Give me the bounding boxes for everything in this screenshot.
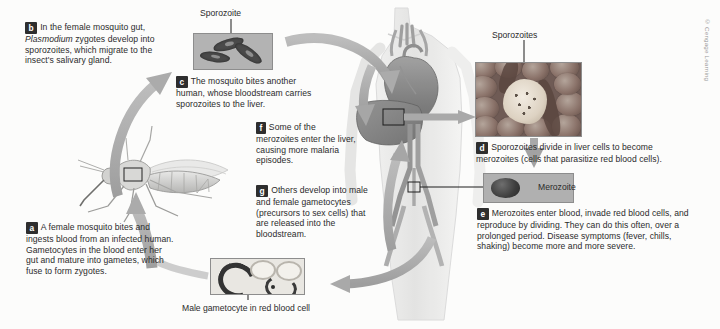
step-a: aA female mosquito bites and ingests blo…	[26, 222, 176, 276]
step-a-tag: a	[26, 222, 38, 234]
panel-blood-smear	[210, 258, 305, 295]
step-c-text: The mosquito bites another human, whose …	[176, 76, 311, 109]
copyright-notice: © Cengage Learning	[704, 18, 711, 81]
step-b-italic-taxon: Plasmodium	[25, 34, 73, 44]
figure-canvas: Sporozoite Sporozoites Merozoite Male ga…	[0, 0, 720, 329]
step-g-tag: g	[256, 185, 268, 197]
label-merozoite: Merozoite	[538, 182, 576, 192]
step-a-text: A female mosquito bites and ingests bloo…	[26, 222, 174, 276]
mosquito-illustration	[78, 126, 228, 222]
panel-sporozoite	[193, 33, 273, 70]
step-f-tag: f	[256, 122, 266, 134]
sporozoite-cell	[233, 40, 264, 67]
step-b: bIn the female mosquito gut, Plasmodium …	[25, 22, 175, 66]
step-e: eMerozoites enter blood, invade red bloo…	[477, 208, 705, 252]
step-e-tag: e	[477, 208, 489, 220]
step-f-text: Some of the merozoites enter the liver, …	[256, 122, 356, 165]
step-e-text: Merozoites enter blood, invade red blood…	[477, 208, 689, 251]
step-g-text: Others develop into male and female game…	[256, 185, 368, 239]
merozoite-cluster	[510, 88, 542, 117]
caption-male-gametocyte: Male gametocyte in red blood cell	[182, 303, 310, 313]
sporozoite-cell	[200, 49, 231, 64]
caption-sporozoite: Sporozoite	[200, 8, 241, 18]
step-b-text-before: In the female mosquito gut,	[40, 22, 145, 32]
step-c-tag: c	[176, 76, 188, 88]
step-f: fSome of the merozoites enter the liver,…	[256, 122, 360, 166]
step-d: dSporozoites divide in liver cells to be…	[476, 142, 684, 165]
merozoite-cell	[491, 178, 519, 198]
caption-sporozoites: Sporozoites	[492, 30, 537, 40]
step-d-text: Sporozoites divide in liver cells to bec…	[476, 142, 662, 164]
step-d-tag: d	[476, 142, 488, 154]
step-c: cThe mosquito bites another human, whose…	[176, 76, 326, 109]
step-g: gOthers develop into male and female gam…	[256, 185, 376, 239]
panel-liver-cells	[475, 62, 582, 137]
step-b-tag: b	[25, 22, 37, 34]
